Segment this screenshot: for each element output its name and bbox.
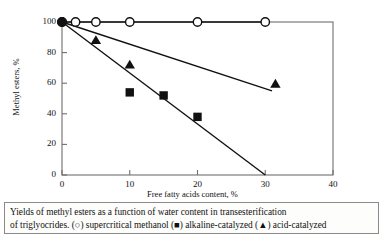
x-tick-label: 30	[252, 179, 278, 189]
marker-supercritical-methanol	[71, 18, 79, 26]
y-tick-label: 100	[30, 16, 56, 26]
y-tick-label: 80	[30, 47, 56, 57]
y-tick-label: 0	[30, 169, 56, 179]
figure-container: Methyl esters, % Free fatty acids conten…	[0, 0, 385, 239]
marker-acid-catalyzed	[270, 79, 280, 88]
x-tick-label: 10	[117, 179, 143, 189]
caption-line-2: of triglyocrides. (○) supercritical meth…	[10, 219, 373, 232]
plot-frame	[62, 22, 333, 175]
x-tick-label: 20	[185, 179, 211, 189]
y-tick-label: 40	[30, 108, 56, 118]
marker-supercritical-methanol	[193, 18, 201, 26]
marker-supercritical-methanol	[126, 18, 134, 26]
marker-alkaline-catalyzed	[159, 91, 167, 99]
chart-plot-area: Methyl esters, % Free fatty acids conten…	[0, 4, 385, 200]
figure-caption: Yields of methyl esters as a function of…	[4, 202, 379, 234]
marker-alkaline-catalyzed	[126, 88, 134, 96]
x-tick-label: 40	[320, 179, 346, 189]
series-line-acid-catalyzed	[62, 22, 272, 91]
y-tick-label: 20	[30, 138, 56, 148]
y-axis-title: Methyl esters, %	[11, 39, 21, 135]
chart-svg	[0, 4, 385, 200]
x-tick-label: 0	[49, 179, 75, 189]
caption-line-1: Yields of methyl esters as a function of…	[10, 206, 373, 219]
marker-acid-catalyzed	[91, 35, 101, 44]
marker-supercritical-methanol	[92, 18, 100, 26]
marker-acid-catalyzed	[125, 60, 135, 69]
x-axis-title: Free fatty acids content, %	[0, 189, 385, 199]
marker-common-origin	[57, 17, 66, 26]
y-tick-label: 60	[30, 77, 56, 87]
marker-alkaline-catalyzed	[193, 113, 201, 121]
marker-supercritical-methanol	[261, 18, 269, 26]
